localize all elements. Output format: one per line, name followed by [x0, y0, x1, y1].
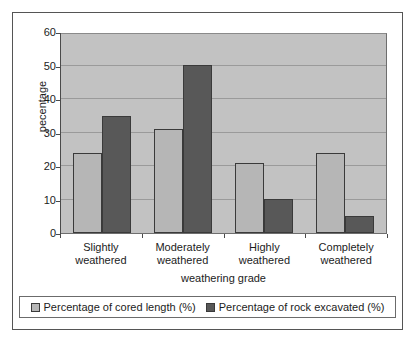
bar — [102, 116, 131, 233]
x-tick-label-line: Moderately — [142, 241, 224, 254]
x-tick-label-line: Completely — [305, 241, 387, 254]
legend-label: Percentage of rock excavated (%) — [219, 302, 385, 313]
x-tick-label-line: Highly — [224, 241, 306, 254]
y-tick-label: 20 — [16, 161, 56, 172]
bar-group — [61, 34, 142, 233]
legend-swatch-icon — [31, 303, 40, 312]
bar-group — [305, 34, 386, 233]
chart-legend: Percentage of cored length (%)Percentage… — [19, 296, 396, 318]
x-tick-label-line: weathered — [142, 254, 224, 267]
x-tick-label: Highlyweathered — [224, 241, 306, 267]
legend-swatch-icon — [206, 303, 215, 312]
y-tick-label: 60 — [16, 27, 56, 38]
y-tick-mark — [56, 67, 60, 68]
bar — [264, 199, 293, 233]
y-axis-title: pecentage — [37, 62, 48, 152]
x-tick-label: Completelyweathered — [305, 241, 387, 267]
bar — [235, 163, 264, 233]
x-axis-tick-labels: SlightlyweatheredModeratelyweatheredHigh… — [60, 241, 387, 267]
x-tick-mark — [387, 234, 388, 238]
y-axis-ticks: 0102030405060 — [13, 33, 56, 234]
legend-entry[interactable]: Percentage of rock excavated (%) — [206, 302, 385, 313]
legend-entry[interactable]: Percentage of cored length (%) — [31, 302, 196, 313]
y-tick-mark — [56, 201, 60, 202]
plot-area — [60, 33, 387, 234]
bar — [154, 129, 183, 233]
x-tick-label-line: weathered — [305, 254, 387, 267]
bar-group — [224, 34, 305, 233]
x-tick-label: Slightlyweathered — [60, 241, 142, 267]
x-tick-label-line: weathered — [224, 254, 306, 267]
y-tick-mark — [56, 100, 60, 101]
y-tick-label: 0 — [16, 228, 56, 239]
bar — [73, 153, 102, 233]
bar-group — [142, 34, 223, 233]
bar — [345, 216, 374, 233]
x-tick-mark — [142, 234, 143, 238]
y-tick-label: 10 — [16, 195, 56, 206]
x-tick-mark — [60, 234, 61, 238]
x-tick-label-line: Slightly — [60, 241, 142, 254]
bars-layer — [61, 34, 386, 233]
y-tick-mark — [56, 167, 60, 168]
legend-label: Percentage of cored length (%) — [44, 302, 196, 313]
y-axis-line — [60, 33, 61, 235]
bar — [183, 65, 212, 233]
x-tick-label: Moderatelyweathered — [142, 241, 224, 267]
x-axis-title: weathering grade — [60, 272, 387, 284]
bar — [316, 153, 345, 233]
x-tick-label-line: weathered — [60, 254, 142, 267]
y-tick-mark — [56, 134, 60, 135]
chart-figure: 0102030405060 pecentage Slightlyweathere… — [12, 12, 403, 330]
x-tick-mark — [305, 234, 306, 238]
y-tick-mark — [56, 33, 60, 34]
x-tick-mark — [224, 234, 225, 238]
